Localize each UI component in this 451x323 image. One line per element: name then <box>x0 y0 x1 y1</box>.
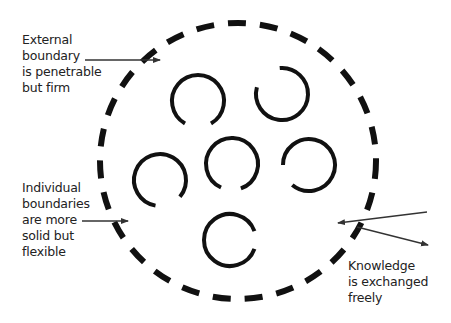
individual-boundary-circle-2 <box>256 68 308 120</box>
knowledge-in-arrow-icon <box>338 212 427 223</box>
external-boundary-label: External boundary is penetrable but firm <box>22 32 101 96</box>
knowledge-out-arrow-icon <box>357 227 428 245</box>
individual-boundary-circle-6 <box>204 214 254 266</box>
individual-boundary-circle-5 <box>283 139 335 191</box>
individual-boundaries <box>134 68 335 266</box>
individual-boundary-circle-4 <box>206 138 258 188</box>
individual-boundary-circle-3 <box>134 154 186 206</box>
individual-boundaries-label: Individual boundaries are more solid but… <box>22 180 90 260</box>
individual-boundary-circle-1 <box>172 75 224 124</box>
knowledge-exchange-label: Knowledge is exchanged freely <box>348 258 428 306</box>
